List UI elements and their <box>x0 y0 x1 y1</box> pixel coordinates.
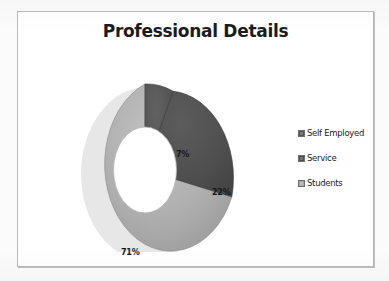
chart-legend: Self Employed Service Students <box>298 128 389 203</box>
chart-frame: Professional Details <box>17 11 374 267</box>
square-swatch-icon <box>298 180 305 187</box>
legend-item-service[interactable]: Service <box>298 153 389 163</box>
square-swatch-icon <box>298 155 305 162</box>
doughnut-chart-plot-area: 7% 22% 71% <box>80 62 240 252</box>
doughnut-hole <box>114 127 177 213</box>
scanned-page-background: Professional Details <box>0 0 389 281</box>
square-swatch-icon <box>298 130 305 137</box>
legend-item-self-employed[interactable]: Self Employed <box>298 128 389 138</box>
legend-label-service: Service <box>307 153 336 163</box>
legend-label-self-employed: Self Employed <box>307 128 364 138</box>
legend-item-students[interactable]: Students <box>298 178 389 188</box>
data-label-service: 22% <box>212 188 231 197</box>
chart-title: Professional Details <box>18 21 373 41</box>
doughnut-chart-svg <box>80 62 240 252</box>
data-label-students: 71% <box>121 248 140 257</box>
data-label-self-employed: 7% <box>176 150 189 159</box>
legend-label-students: Students <box>307 178 343 188</box>
